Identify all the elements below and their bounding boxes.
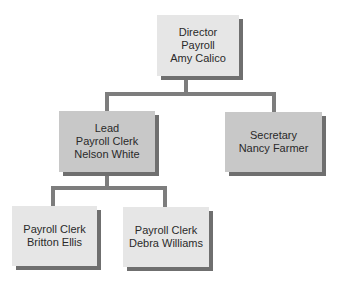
node-secretary-title: Secretary (250, 129, 297, 142)
node-director-dept: Payroll (181, 39, 215, 52)
connector-to-clerk2 (163, 186, 167, 207)
connector-to-clerk1 (51, 186, 55, 206)
node-clerk-britton: Payroll Clerk Britton Ellis (12, 206, 97, 266)
connector-level2-bar (51, 186, 167, 190)
node-lead: Lead Payroll Clerk Nelson White (59, 111, 155, 172)
node-lead-title: Lead (95, 122, 119, 135)
node-secretary-name: Nancy Farmer (239, 142, 309, 155)
node-clerk-britton-title: Payroll Clerk (23, 223, 85, 236)
node-clerk-debra-name: Debra Williams (129, 237, 203, 250)
node-lead-name: Nelson White (74, 148, 139, 161)
node-secretary: Secretary Nancy Farmer (225, 112, 322, 172)
node-director-title: Director (179, 26, 218, 39)
node-director-name: Amy Calico (170, 52, 226, 65)
node-lead-role: Payroll Clerk (76, 135, 138, 148)
connector-to-secretary (272, 92, 276, 112)
node-director: Director Payroll Amy Calico (157, 15, 239, 76)
node-clerk-debra-title: Payroll Clerk (135, 224, 197, 237)
connector-level1-bar (105, 92, 276, 96)
node-clerk-debra: Payroll Clerk Debra Williams (123, 207, 209, 267)
connector-to-lead (105, 92, 109, 111)
node-clerk-britton-name: Britton Ellis (27, 236, 82, 249)
